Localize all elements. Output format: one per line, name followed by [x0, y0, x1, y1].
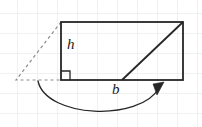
figure-svg: h b	[0, 0, 202, 127]
base-label: b	[112, 81, 120, 97]
height-label: h	[67, 36, 75, 52]
grid-lines	[0, 0, 202, 127]
geometry-figure-canvas: h b	[0, 0, 202, 127]
